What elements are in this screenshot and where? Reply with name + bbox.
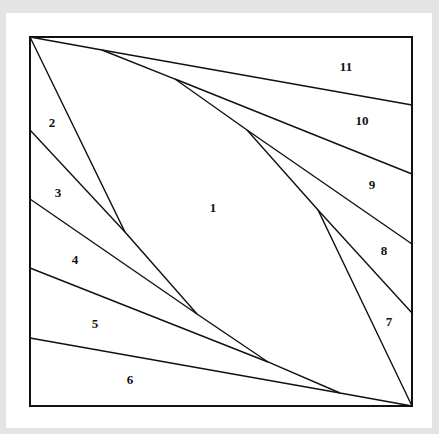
- region-label-8: 8: [381, 243, 388, 258]
- quilt-diagram: 1 2 3 4 5 6 7 8 9 10 11: [0, 0, 439, 434]
- line-10-11: [102, 50, 412, 105]
- line-9-10: [175, 79, 412, 174]
- line-3-4: [30, 199, 197, 314]
- right-curve: [30, 37, 412, 406]
- line-4-5: [30, 268, 268, 362]
- region-label-1: 1: [210, 200, 217, 215]
- line-5-6: [30, 338, 340, 393]
- line-7-8: [318, 210, 412, 313]
- region-label-5: 5: [92, 316, 99, 331]
- left-curve: [30, 37, 412, 406]
- region-label-9: 9: [369, 177, 376, 192]
- region-label-11: 11: [340, 59, 352, 74]
- region-label-4: 4: [72, 252, 79, 267]
- region-label-7: 7: [386, 314, 393, 329]
- region-label-10: 10: [356, 113, 369, 128]
- line-8-9: [247, 130, 412, 244]
- region-label-3: 3: [55, 185, 62, 200]
- region-label-6: 6: [127, 372, 134, 387]
- line-2-3: [30, 130, 125, 232]
- region-label-2: 2: [49, 115, 56, 130]
- frame-border: [30, 37, 412, 406]
